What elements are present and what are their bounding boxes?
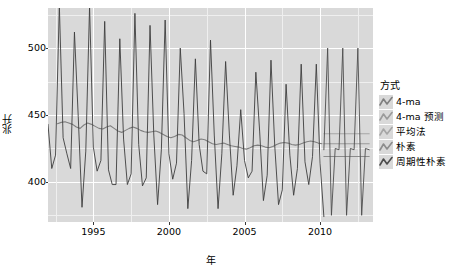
x-tick-label: 2000 [149, 226, 189, 237]
legend-key-icon [379, 110, 393, 124]
legend-item-label: 4-ma 预测 [396, 111, 444, 123]
x-tick-label: 2010 [300, 226, 340, 237]
legend-key-icon [379, 125, 393, 139]
legend-key-icon [379, 95, 393, 109]
legend-item: 4-ma [379, 95, 475, 109]
series-line [57, 122, 322, 149]
legend-item-label: 平均法 [396, 126, 426, 138]
legend-key-icon [379, 140, 393, 154]
legend-item: 周期性朴素 [379, 155, 475, 169]
legend-item: 4-ma 预测 [379, 110, 475, 124]
legend-key-icon [379, 155, 393, 169]
x-tick-mark [320, 222, 321, 225]
plot-panel [48, 8, 373, 222]
x-tick-mark [169, 222, 170, 225]
legend-item-label: 周期性朴素 [396, 156, 446, 168]
x-tick-label: 2005 [225, 226, 265, 237]
series-line [48, 8, 324, 217]
data-series-layer [48, 8, 373, 222]
x-tick-label: 1995 [73, 226, 113, 237]
legend-item-label: 朴素 [396, 141, 416, 153]
x-tick-mark [93, 222, 94, 225]
legend: 方式 4-ma4-ma 预测平均法朴素周期性朴素 [379, 80, 475, 170]
legend-item-label: 4-ma [396, 96, 421, 108]
legend-item: 平均法 [379, 125, 475, 139]
chart-figure: 兆升 400450500 年 1995200020052010 方式 4-ma4… [0, 0, 476, 280]
legend-item: 朴素 [379, 140, 475, 154]
series-line [324, 48, 369, 215]
legend-items: 4-ma4-ma 预测平均法朴素周期性朴素 [379, 95, 475, 169]
x-tick-mark [245, 222, 246, 225]
legend-title: 方式 [380, 80, 475, 92]
